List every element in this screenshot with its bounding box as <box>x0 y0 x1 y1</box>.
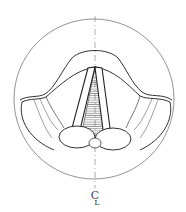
centerline-label: C L <box>88 190 102 208</box>
right-arytenoid <box>95 128 131 150</box>
larynx-diagram <box>0 0 186 212</box>
right-ventricular-fold <box>126 96 140 128</box>
right-pyriform-line-2 <box>134 99 152 130</box>
centerline-label-l: L <box>92 197 102 208</box>
right-aryepiglottic-fold <box>140 102 171 150</box>
left-ventricular-fold <box>46 97 64 128</box>
interarytenoid <box>89 138 101 148</box>
